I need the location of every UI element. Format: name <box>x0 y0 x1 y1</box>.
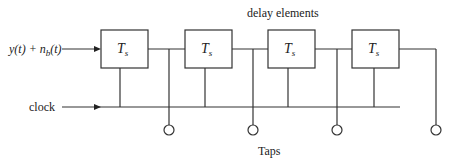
input-arrowhead-icon <box>94 46 101 52</box>
taps-label: Taps <box>258 144 281 158</box>
delay-element-2: Ts <box>185 30 232 68</box>
input-signal-label: y(t) + nb(t) <box>8 42 62 58</box>
delay-element-1: Ts <box>101 30 148 68</box>
clock-arrowhead-icon <box>94 104 101 110</box>
tapped-delay-line-diagram: delay elements y(t) + nb(t) clock Ts Ts … <box>0 0 451 164</box>
tap-circle-2 <box>248 125 258 135</box>
delay-elements-label: delay elements <box>247 6 319 20</box>
tap-circle-1 <box>164 125 174 135</box>
delay-element-4: Ts <box>352 30 399 68</box>
delay-element-3: Ts <box>268 30 315 68</box>
tap-circle-3 <box>332 125 342 135</box>
tap-circle-4 <box>431 125 441 135</box>
clock-label: clock <box>29 100 55 114</box>
